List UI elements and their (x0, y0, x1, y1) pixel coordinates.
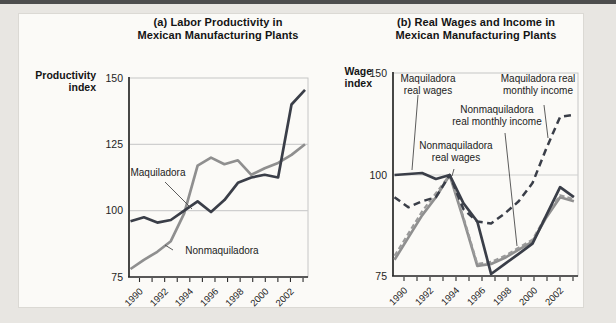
x-tick-label-1992: 1992 (413, 285, 436, 308)
x-tick-label-1998: 1998 (491, 285, 514, 308)
x-tick-label-1990: 1990 (122, 286, 145, 309)
series-callout-label: Maquiladora realmonthly income (501, 73, 576, 96)
callout-leader (544, 105, 548, 138)
x-tick-label-1992: 1992 (147, 286, 170, 309)
series-callout-label: Nonmaquiladora (185, 245, 259, 256)
y-tick-label-125: 125 (105, 138, 123, 150)
line-charts-canvas: 150125100751990199219941996199820002002M… (0, 0, 616, 323)
figure-page: (a) Labor Productivity in Mexican Manufa… (0, 0, 616, 323)
x-tick-label-1994: 1994 (173, 286, 196, 309)
x-tick-label-2002: 2002 (273, 286, 296, 309)
x-tick-label-1996: 1996 (465, 285, 488, 308)
x-tick-label-2002: 2002 (543, 285, 566, 308)
x-tick-label-1998: 1998 (223, 286, 246, 309)
series-callout-label: Nonmaquiladorareal wages (419, 140, 493, 163)
y-tick-label-75: 75 (111, 271, 123, 283)
x-tick-label-2000: 2000 (517, 285, 540, 308)
chart-a: 150125100751990199219941996199820002002M… (105, 72, 308, 309)
y-tick-label-75: 75 (375, 270, 387, 282)
callout-leader (165, 245, 173, 250)
y-tick-label-150: 150 (369, 67, 387, 79)
y-tick-label-100: 100 (369, 169, 387, 181)
x-tick-label-1990: 1990 (387, 285, 410, 308)
callout-leader (505, 133, 517, 246)
y-tick-label-150: 150 (105, 72, 123, 84)
chart-b: 150100751990199219941996199820002002Maqu… (369, 67, 578, 308)
callout-leader (412, 95, 418, 170)
series-callout-label: Maquiladora (130, 167, 185, 178)
x-tick-label-2000: 2000 (248, 286, 271, 309)
series-line (395, 173, 574, 274)
series-callout-label: Maquiladorareal wages (400, 73, 455, 96)
series-line (131, 90, 306, 223)
series-callout-label: Nonmaquiladorareal monthly income (452, 104, 542, 127)
y-tick-label-100: 100 (105, 204, 123, 216)
x-tick-label-1994: 1994 (439, 285, 462, 308)
x-tick-label-1996: 1996 (198, 286, 221, 309)
